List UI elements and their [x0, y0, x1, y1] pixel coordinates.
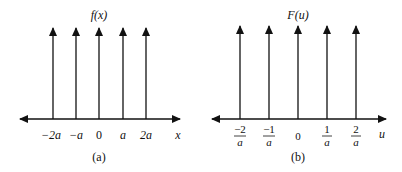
- tick-label: 2a: [140, 128, 152, 142]
- svg-text:−1: −1: [263, 123, 275, 135]
- impulses: [53, 28, 146, 119]
- tick-label: 0: [295, 130, 301, 142]
- tick-labels: −2a −a 0 a 2a: [41, 128, 152, 142]
- tick-label-fraction: 1 a: [322, 123, 332, 148]
- tick-label: −a: [69, 128, 83, 142]
- tick-labels: −2 a −1 a 0 1 a 2 a: [234, 123, 361, 148]
- tick-label: a: [120, 128, 126, 142]
- caption: (b): [291, 150, 305, 164]
- svg-text:1: 1: [324, 123, 330, 135]
- axis-label: x: [174, 128, 181, 142]
- panel-b: F(u) −2 a −1 a 0 1 a 2 a: [212, 8, 386, 164]
- tick-label: 0: [96, 128, 102, 142]
- impulse-train-figure: f(x) −2a −a 0 a 2a x (a) F(u) −2 a: [0, 0, 402, 172]
- svg-text:−2: −2: [234, 123, 246, 135]
- function-label: F(u): [286, 8, 308, 22]
- axis-label: u: [379, 127, 385, 141]
- svg-text:a: a: [237, 136, 243, 148]
- svg-text:2: 2: [353, 123, 359, 135]
- function-label: f(x): [91, 8, 108, 22]
- tick-label: −2a: [41, 128, 61, 142]
- tick-label-fraction: −2 a: [234, 123, 246, 148]
- svg-text:a: a: [266, 136, 272, 148]
- tick-label-fraction: −1 a: [263, 123, 275, 148]
- tick-label-fraction: 2 a: [351, 123, 361, 148]
- impulses: [240, 26, 356, 119]
- svg-text:a: a: [353, 136, 359, 148]
- caption: (a): [92, 150, 105, 164]
- panel-a: f(x) −2a −a 0 a 2a x (a): [20, 8, 181, 164]
- svg-text:a: a: [324, 136, 330, 148]
